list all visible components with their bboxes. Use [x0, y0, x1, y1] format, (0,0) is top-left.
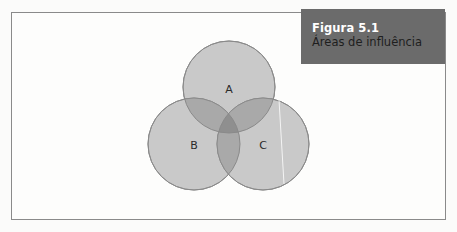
figure-title-box: Figura 5.1 Áreas de influência [301, 9, 445, 64]
figure-number: Figura 5.1 [312, 21, 445, 35]
figure-title: Áreas de influência [312, 35, 445, 50]
label-c: C [259, 139, 267, 152]
label-b: B [190, 139, 198, 152]
label-a: A [225, 83, 233, 96]
